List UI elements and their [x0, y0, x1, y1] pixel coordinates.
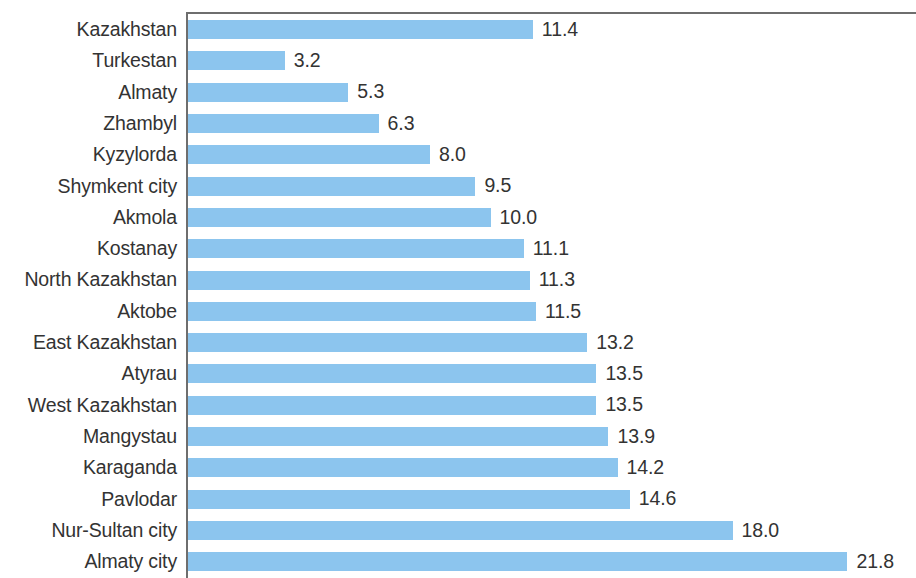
bar	[188, 271, 530, 290]
bar-row: Turkestan3.2	[0, 45, 916, 76]
bar-value-label: 18.0	[742, 521, 780, 541]
bar-with-value: 6.3	[188, 108, 414, 139]
bar	[188, 51, 285, 70]
bar-value-label: 13.2	[596, 333, 634, 353]
bar-value-label: 9.5	[484, 176, 511, 196]
category-label: Shymkent city	[58, 171, 186, 202]
bar-with-value: 10.0	[188, 202, 537, 233]
bar-value-label: 10.0	[500, 208, 538, 228]
bar	[188, 20, 533, 39]
bar-value-label: 14.2	[627, 458, 665, 478]
bar-row: Pavlodar14.6	[0, 484, 916, 515]
category-label: Karaganda	[83, 452, 186, 483]
bar-row: East Kazakhstan13.2	[0, 327, 916, 358]
bar-row: Zhambyl6.3	[0, 108, 916, 139]
bar-with-value: 11.5	[188, 296, 581, 327]
bar-row: Karaganda14.2	[0, 452, 916, 483]
category-label: Aktobe	[117, 296, 186, 327]
bar-with-value: 13.2	[188, 327, 634, 358]
category-label: Kyzylorda	[93, 139, 186, 170]
bar-row: West Kazakhstan13.5	[0, 390, 916, 421]
bar	[188, 177, 475, 196]
bar-row: Atyrau13.5	[0, 358, 916, 389]
category-label: Kostanay	[97, 233, 186, 264]
category-label: Pavlodar	[101, 484, 186, 515]
bar-row: Kazakhstan11.4	[0, 14, 916, 45]
bar-row: Mangystau13.9	[0, 421, 916, 452]
bar-chart: Kazakhstan11.4Turkestan3.2Almaty5.3Zhamb…	[0, 0, 916, 578]
bar	[188, 208, 491, 227]
bar-with-value: 13.5	[188, 390, 643, 421]
bar	[188, 364, 596, 383]
bar-row: Kostanay11.1	[0, 233, 916, 264]
bar-value-label: 13.5	[605, 395, 643, 415]
bar-value-label: 11.4	[542, 20, 578, 40]
bar-with-value: 8.0	[188, 139, 466, 170]
bar-row: Almaty5.3	[0, 77, 916, 108]
bar-value-label: 14.6	[639, 489, 677, 509]
bar	[188, 490, 630, 509]
bar	[188, 302, 536, 321]
bar-row: Shymkent city9.5	[0, 171, 916, 202]
bar-value-label: 8.0	[439, 145, 466, 165]
bar-with-value: 5.3	[188, 77, 384, 108]
bar	[188, 114, 379, 133]
bar-value-label: 13.9	[617, 427, 655, 447]
bar-value-label: 3.2	[294, 51, 321, 71]
bar-value-label: 5.3	[357, 82, 384, 102]
bar-with-value: 14.6	[188, 484, 676, 515]
bar-with-value: 3.2	[188, 45, 321, 76]
category-label: Mangystau	[83, 421, 186, 452]
category-label: Atyrau	[122, 358, 186, 389]
bar-with-value: 11.3	[188, 264, 575, 295]
bar-with-value: 14.2	[188, 452, 664, 483]
bar	[188, 145, 430, 164]
category-label: Kazakhstan	[77, 14, 186, 45]
bar-row: Akmola10.0	[0, 202, 916, 233]
category-label: East Kazakhstan	[33, 327, 186, 358]
category-label: West Kazakhstan	[28, 390, 186, 421]
bar-value-label: 11.1	[533, 239, 569, 259]
bar	[188, 396, 596, 415]
bar-with-value: 11.1	[188, 233, 569, 264]
category-label: North Kazakhstan	[24, 264, 186, 295]
bar	[188, 458, 618, 477]
category-label: Zhambyl	[103, 108, 186, 139]
bar-value-label: 21.8	[856, 552, 894, 572]
bar-with-value: 13.9	[188, 421, 655, 452]
bar	[188, 83, 348, 102]
bar-value-label: 11.3	[539, 270, 575, 290]
bar-with-value: 11.4	[188, 14, 578, 45]
bar-row: Almaty city21.8	[0, 546, 916, 577]
bar-with-value: 18.0	[188, 515, 779, 546]
bar-value-label: 11.5	[545, 302, 581, 322]
bar-value-label: 13.5	[605, 364, 643, 384]
bar	[188, 521, 733, 540]
category-label: Almaty	[118, 77, 186, 108]
bar	[188, 552, 847, 571]
bar	[188, 239, 524, 258]
bar-value-label: 6.3	[388, 114, 415, 134]
bar	[188, 427, 608, 446]
category-label: Almaty city	[84, 546, 186, 577]
bar-with-value: 9.5	[188, 171, 511, 202]
bar-with-value: 13.5	[188, 358, 643, 389]
bar-row: Kyzylorda8.0	[0, 139, 916, 170]
category-label: Turkestan	[92, 45, 186, 76]
bar-row: Aktobe11.5	[0, 296, 916, 327]
bar	[188, 333, 587, 352]
category-label: Akmola	[113, 202, 186, 233]
bar-row: North Kazakhstan11.3	[0, 264, 916, 295]
category-label: Nur-Sultan city	[51, 515, 186, 546]
bar-row: Nur-Sultan city18.0	[0, 515, 916, 546]
bar-with-value: 21.8	[188, 546, 894, 577]
